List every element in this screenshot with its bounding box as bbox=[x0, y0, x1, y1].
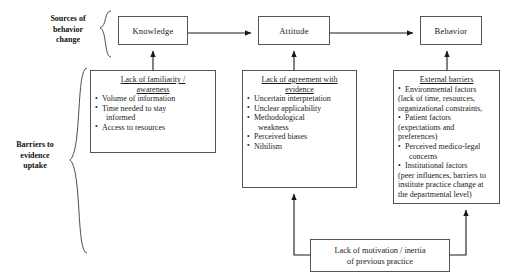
list-item: Unclear applicability bbox=[247, 104, 352, 114]
node-lack-of-familiarity-title-line-1: Lack of familiarity / bbox=[121, 75, 186, 84]
node-behavior[interactable]: Behavior bbox=[420, 16, 482, 45]
list-item: (expectations and bbox=[398, 123, 495, 133]
list-item: institute practice change at bbox=[398, 180, 495, 190]
list-item: Methodological bbox=[247, 113, 352, 123]
node-lack-of-familiarity-title-line-2: awareness bbox=[137, 85, 170, 94]
node-external-barriers-title-line-1: External barriers bbox=[420, 75, 474, 84]
group-label-sources-line-3: change bbox=[36, 35, 100, 46]
arrow-motivation-to-agreement bbox=[294, 194, 310, 255]
node-external-barriers[interactable]: External barriers Environmental factors … bbox=[393, 70, 500, 204]
node-lack-of-familiarity[interactable]: Lack of familiarity / awareness Volume o… bbox=[90, 70, 216, 153]
list-item: Uncertain interpretation bbox=[247, 94, 352, 104]
group-label-barriers-line-3: uptake bbox=[4, 161, 66, 172]
diagram-canvas: Sources of behavior change Barriers to e… bbox=[0, 0, 518, 280]
brace-sources bbox=[100, 11, 111, 57]
list-item: Access to resources bbox=[95, 123, 211, 133]
list-item: Institutional factors bbox=[398, 161, 495, 171]
node-lack-of-agreement-title: Lack of agreement with evidence bbox=[247, 75, 352, 94]
node-lack-of-familiarity-title: Lack of familiarity / awareness bbox=[95, 75, 211, 94]
node-lack-of-agreement-title-line-1: Lack of agreement with bbox=[261, 75, 337, 84]
node-attitude-label: Attitude bbox=[279, 26, 308, 36]
list-item: Nihilism bbox=[247, 142, 352, 152]
list-item: weakness bbox=[247, 123, 352, 133]
node-attitude[interactable]: Attitude bbox=[258, 16, 330, 45]
node-lack-of-familiarity-list: Volume of information Time needed to sta… bbox=[95, 94, 211, 132]
group-label-sources-line-2: behavior bbox=[36, 25, 100, 36]
group-label-sources-line-1: Sources of bbox=[36, 14, 100, 25]
node-lack-of-agreement-list: Uncertain interpretation Unclear applica… bbox=[247, 94, 352, 152]
arrow-motivation-to-external bbox=[450, 210, 466, 255]
list-item: preferences) bbox=[398, 132, 495, 142]
list-item: Perceived biases bbox=[247, 132, 352, 142]
list-item: the departmental level) bbox=[398, 190, 495, 200]
list-item: Patient factors bbox=[398, 113, 495, 123]
node-lack-of-motivation-text: Lack of motivation / inertia of previous… bbox=[334, 245, 425, 267]
node-behavior-label: Behavior bbox=[435, 26, 468, 36]
node-lack-of-agreement[interactable]: Lack of agreement with evidence Uncertai… bbox=[242, 70, 357, 188]
list-item: Perceived medico-legal bbox=[398, 142, 495, 152]
node-lack-of-motivation[interactable]: Lack of motivation / inertia of previous… bbox=[310, 239, 450, 272]
list-item: Volume of information bbox=[95, 94, 211, 104]
node-knowledge-label: Knowledge bbox=[133, 26, 174, 36]
node-external-barriers-list: Environmental factors (lack of time, res… bbox=[398, 85, 495, 200]
node-knowledge[interactable]: Knowledge bbox=[118, 16, 188, 45]
list-item: (lack of time, resources, bbox=[398, 94, 495, 104]
list-item: informed bbox=[95, 113, 211, 123]
brace-barriers bbox=[70, 68, 87, 253]
group-label-sources-of-behavior-change: Sources of behavior change bbox=[36, 14, 100, 46]
node-external-barriers-title: External barriers bbox=[398, 75, 495, 85]
list-item: concerns bbox=[398, 152, 495, 162]
group-label-barriers-to-evidence-uptake: Barriers to evidence uptake bbox=[4, 140, 66, 172]
list-item: Time needed to stay bbox=[95, 104, 211, 114]
node-lack-of-agreement-title-line-2: evidence bbox=[285, 85, 313, 94]
node-lack-of-motivation-line-1: Lack of motivation / inertia bbox=[334, 245, 425, 256]
list-item: Environmental factors bbox=[398, 85, 495, 95]
list-item: organizational constraints, bbox=[398, 104, 495, 114]
node-lack-of-motivation-line-2: of previous practice bbox=[334, 256, 425, 267]
group-label-barriers-line-2: evidence bbox=[4, 151, 66, 162]
list-item: (peer influences, barriers to bbox=[398, 171, 495, 181]
group-label-barriers-line-1: Barriers to bbox=[4, 140, 66, 151]
